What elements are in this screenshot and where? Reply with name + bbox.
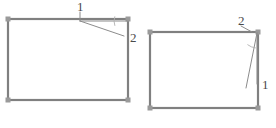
left-figure-leader-to-point-2 [80, 21, 124, 36]
rectangle-outline [150, 32, 258, 108]
right-figure-leader-to-point-1 [246, 33, 257, 88]
figure-container: 1221 [0, 0, 276, 128]
corner-marker-bottom-left[interactable] [6, 98, 11, 103]
left-figure-label-2: 2 [130, 30, 137, 45]
corner-marker-bottom-left[interactable] [148, 106, 153, 111]
corner-marker-top-right[interactable] [256, 30, 261, 35]
corner-marker-bottom-right[interactable] [256, 106, 261, 111]
geometry-canvas: 1221 [0, 0, 276, 128]
left-figure: 12 [6, 0, 137, 103]
corner-marker-bottom-right[interactable] [126, 98, 131, 103]
corner-marker-top-left[interactable] [6, 17, 11, 22]
corner-marker-top-left[interactable] [148, 30, 153, 35]
right-figure-label-2: 2 [238, 13, 245, 28]
right-figure: 21 [148, 13, 269, 111]
left-figure-label-1: 1 [77, 0, 84, 14]
right-figure-label-1: 1 [262, 77, 269, 92]
